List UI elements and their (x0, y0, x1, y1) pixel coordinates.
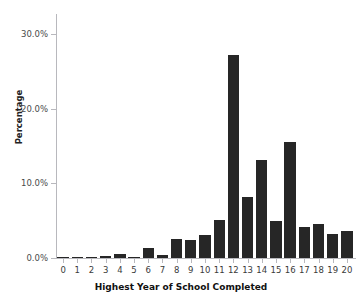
bar-7[interactable] (157, 255, 168, 258)
x-tick-6 (148, 259, 149, 263)
bar-12[interactable] (228, 55, 239, 258)
x-tick-8 (177, 259, 178, 263)
x-tick-17 (304, 259, 305, 263)
x-axis-label-19: 19 (327, 265, 338, 275)
x-tick-7 (162, 259, 163, 263)
bar-17[interactable] (299, 227, 310, 258)
bar-15[interactable] (270, 221, 281, 258)
x-axis-label-2: 2 (89, 265, 94, 275)
bar-20[interactable] (341, 231, 352, 258)
x-tick-20 (347, 259, 348, 263)
bar-10[interactable] (199, 235, 210, 258)
x-tick-2 (91, 259, 92, 263)
x-axis-label-12: 12 (228, 265, 239, 275)
x-tick-19 (333, 259, 334, 263)
x-tick-15 (276, 259, 277, 263)
x-axis-label-1: 1 (75, 265, 80, 275)
x-axis-label-4: 4 (117, 265, 122, 275)
x-tick-12 (233, 259, 234, 263)
x-tick-5 (134, 259, 135, 263)
plot-area (56, 14, 354, 258)
bar-1[interactable] (72, 257, 83, 258)
x-tick-11 (219, 259, 220, 263)
chart-screenshot: Percentage 0.0%10.0%20.0%30.0% 012345678… (0, 0, 362, 302)
x-tick-10 (205, 259, 206, 263)
bar-4[interactable] (114, 254, 125, 258)
bar-13[interactable] (242, 197, 253, 258)
x-axis-label-8: 8 (174, 265, 179, 275)
x-axis-label-6: 6 (146, 265, 151, 275)
x-axis-label-10: 10 (200, 265, 211, 275)
x-axis-label-13: 13 (242, 265, 253, 275)
x-axis-label-7: 7 (160, 265, 165, 275)
bar-2[interactable] (86, 257, 97, 258)
x-tick-16 (290, 259, 291, 263)
bar-18[interactable] (313, 224, 324, 258)
x-axis-label-0: 0 (60, 265, 65, 275)
x-axis-label-5: 5 (131, 265, 136, 275)
bar-16[interactable] (284, 142, 295, 258)
x-tick-13 (248, 259, 249, 263)
y-axis-label: 30.0% (21, 29, 48, 39)
x-axis-label-20: 20 (341, 265, 352, 275)
bar-9[interactable] (185, 240, 196, 258)
y-axis-label: 0.0% (26, 253, 48, 263)
bar-0[interactable] (57, 257, 68, 258)
y-axis-label: 20.0% (21, 104, 48, 114)
bar-3[interactable] (100, 256, 111, 258)
x-tick-0 (63, 259, 64, 263)
x-axis-label-9: 9 (188, 265, 193, 275)
x-axis-label-15: 15 (271, 265, 282, 275)
x-tick-9 (191, 259, 192, 263)
x-axis-title: Highest Year of School Completed (0, 282, 362, 292)
x-axis-label-16: 16 (285, 265, 296, 275)
x-axis-label-11: 11 (214, 265, 225, 275)
bar-14[interactable] (256, 160, 267, 258)
y-axis-label: 10.0% (21, 178, 48, 188)
x-axis-label-14: 14 (256, 265, 267, 275)
x-axis-label-18: 18 (313, 265, 324, 275)
bar-8[interactable] (171, 239, 182, 258)
x-tick-4 (120, 259, 121, 263)
x-tick-14 (262, 259, 263, 263)
x-axis-label-3: 3 (103, 265, 108, 275)
bar-6[interactable] (143, 248, 154, 258)
x-axis-line (56, 258, 356, 259)
x-tick-18 (319, 259, 320, 263)
x-tick-3 (106, 259, 107, 263)
x-tick-1 (77, 259, 78, 263)
bar-19[interactable] (327, 234, 338, 258)
bar-5[interactable] (128, 257, 139, 258)
y-axis-title: Percentage (14, 72, 24, 162)
x-axis-label-17: 17 (299, 265, 310, 275)
bar-11[interactable] (214, 220, 225, 258)
y-tick-00 (51, 258, 56, 259)
